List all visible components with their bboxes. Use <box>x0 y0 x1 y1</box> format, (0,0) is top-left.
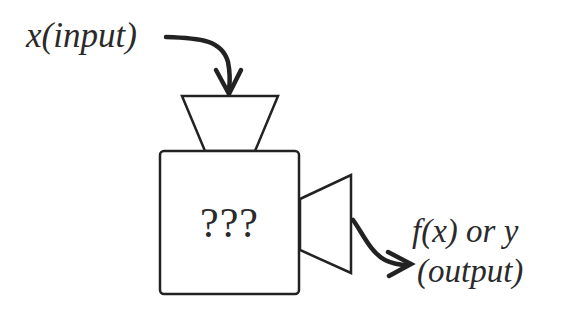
function-machine-diagram: x(input) ??? f(x) or y (output) <box>0 0 567 319</box>
output-label-line2: (output) <box>417 255 523 288</box>
output-nozzle <box>300 175 351 273</box>
center-label: ??? <box>160 151 299 294</box>
input-label: x(input) <box>26 18 137 53</box>
input-hopper <box>182 96 278 151</box>
input-arrow-icon <box>166 37 241 94</box>
output-label-line1: f(x) or y <box>412 215 518 248</box>
output-arrow-icon <box>353 220 411 276</box>
